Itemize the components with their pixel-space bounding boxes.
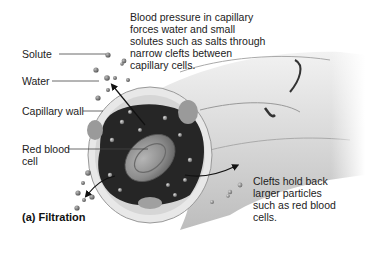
label-water: Water: [22, 75, 50, 87]
annotation-right-line1: Clefts hold back: [253, 175, 336, 187]
annotation-top-line3: solutes such as salts through: [130, 35, 265, 47]
annotation-right-line2: larger particles: [253, 187, 336, 199]
annotation-right-line3: such as red blood: [253, 199, 336, 211]
annotation-top-line1: Blood pressure in capillary: [130, 11, 265, 23]
label-solute: Solute: [22, 48, 52, 60]
label-red-blood-cell: Red blood cell: [22, 143, 70, 167]
filtration-diagram: Solute Water Capillary wall Red blood ce…: [0, 0, 365, 265]
annotation-top-line2: forces water and small: [130, 23, 265, 35]
annotation-right-line4: cells.: [253, 211, 336, 223]
annotation-filtration-pressure: Blood pressure in capillary forces water…: [130, 11, 265, 71]
annotation-top-line4: narrow clefts between: [130, 47, 265, 59]
figure-caption: (a) Filtration: [22, 211, 86, 223]
label-rbc-line1: Red blood: [22, 143, 70, 155]
label-capillary-wall: Capillary wall: [22, 105, 84, 117]
label-rbc-line2: cell: [22, 155, 70, 167]
annotation-top-line5: capillary cells.: [130, 59, 265, 71]
annotation-clefts: Clefts hold back larger particles such a…: [253, 175, 336, 223]
